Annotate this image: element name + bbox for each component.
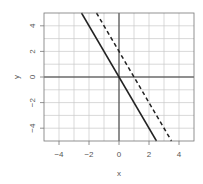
y-axis-ticks: −4−2024	[28, 23, 44, 133]
x-tick-label: −4	[54, 150, 64, 159]
x-tick-label: 0	[117, 150, 122, 159]
x-tick-label: 2	[147, 150, 152, 159]
x-tick-label: 4	[177, 150, 182, 159]
x-axis-label: x	[117, 169, 121, 178]
y-tick-label: 0	[28, 74, 37, 79]
x-axis-ticks: −4−2024	[54, 141, 181, 159]
x-tick-label: −2	[84, 150, 94, 159]
line-chart: −4−2024 −4−2024 x y	[0, 0, 203, 184]
y-tick-label: 4	[28, 23, 37, 28]
y-tick-label: 2	[28, 49, 37, 54]
y-axis-label: y	[12, 75, 21, 79]
y-tick-label: −4	[28, 123, 37, 133]
y-tick-label: −2	[28, 97, 37, 107]
